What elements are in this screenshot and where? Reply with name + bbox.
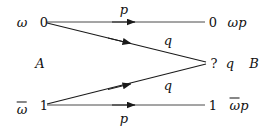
left-group-label-a: A xyxy=(35,57,44,70)
edge-line-1-to-erasure xyxy=(47,64,206,104)
left-bottom-state: 1 xyxy=(40,99,48,112)
left-top-prior-symbol: ω xyxy=(17,16,28,29)
right-erasure-output: q xyxy=(226,57,234,70)
right-bottom-state: 1 xyxy=(209,99,217,112)
edge-arrow-0-to-erasure xyxy=(108,38,131,44)
edge-label-p-top: p xyxy=(120,3,128,16)
channel-diagram: ω 0 ω 1 A p q q p 0 ωp ? q B 1 ωp xyxy=(0,0,273,127)
edge-label-q-upper: q xyxy=(164,34,172,47)
right-erasure-state: ? xyxy=(211,57,218,70)
right-top-state: 0 xyxy=(209,16,217,29)
edge-label-p-bottom: p xyxy=(120,112,128,125)
left-bottom-prior-symbol: ω xyxy=(17,103,28,116)
right-group-label-b: B xyxy=(249,57,259,70)
right-bottom-output: ωp xyxy=(230,99,249,112)
left-top-state: 0 xyxy=(40,16,48,29)
right-bottom-output-p: p xyxy=(240,98,248,113)
right-top-output: ωp xyxy=(228,16,247,29)
right-bottom-output-omega-bar: ω xyxy=(230,99,241,112)
edge-arrow-1-to-erasure xyxy=(108,84,131,90)
edge-label-q-lower: q xyxy=(164,79,172,92)
